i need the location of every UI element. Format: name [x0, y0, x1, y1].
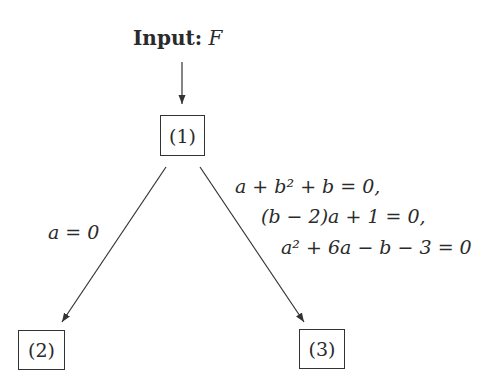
node-1-label: (1) — [169, 125, 196, 147]
node-3: (3) — [299, 329, 345, 369]
input-title: Input: F — [133, 26, 222, 50]
edge-label-eq-2: (b − 2)a + 1 = 0, — [261, 205, 426, 227]
edge-label-eq-3: a² + 6a − b − 3 = 0 — [281, 236, 472, 258]
edge-label-eq-1: a + b² + b = 0, — [235, 175, 380, 197]
input-label: Input: — [133, 26, 202, 50]
node-2-label: (2) — [28, 339, 55, 361]
edge-label-a-equals-0: a = 0 — [48, 221, 99, 243]
node-2: (2) — [18, 330, 65, 370]
input-variable: F — [208, 26, 222, 50]
node-1: (1) — [160, 115, 205, 156]
edge-1-to-2 — [62, 167, 166, 322]
node-3-label: (3) — [309, 338, 336, 360]
